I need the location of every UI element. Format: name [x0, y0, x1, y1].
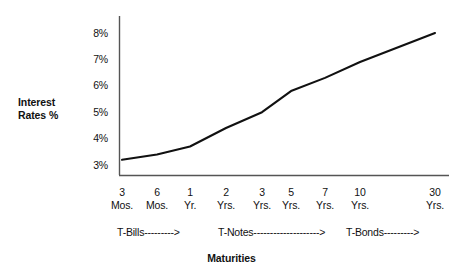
yield-curve-chart: Interest Rates % 8%7%6%5%4%3% 3Mos.6Mos.… [0, 0, 463, 277]
x-axis-title: Maturities [0, 252, 463, 264]
x-tick-unit: Yrs. [338, 199, 382, 212]
annotation-t-notes: T-Notes--------------------> [218, 226, 325, 238]
x-tick-label: 30Yrs. [413, 186, 457, 211]
annotation-t-bills: T-Bills---------> [117, 226, 180, 238]
x-tick-number: 30 [413, 186, 457, 199]
annotation-t-bonds: T-Bonds---------> [346, 226, 419, 238]
yield-curve-line [122, 33, 435, 160]
x-tick-unit: Yrs. [413, 199, 457, 212]
x-tick-label: 10Yrs. [338, 186, 382, 211]
x-tick-number: 10 [338, 186, 382, 199]
